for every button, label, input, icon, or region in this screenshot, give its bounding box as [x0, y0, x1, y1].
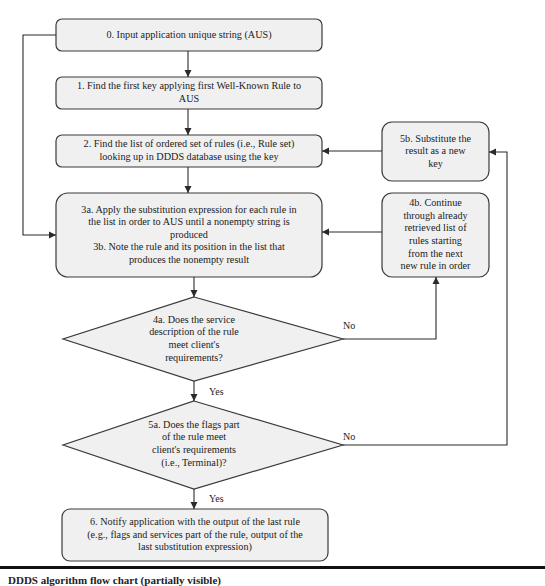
- edge-label-4a-no: No: [343, 320, 355, 331]
- step0-text: 0. Input application unique string (AUS): [56, 19, 322, 51]
- step1-text: 1. Find the first key applying first Wel…: [56, 77, 322, 109]
- step2-text: 2. Find the list of ordered set of rules…: [56, 135, 322, 167]
- edge-label-4a-yes: Yes: [209, 386, 224, 397]
- edge-label-5a-no: No: [343, 431, 355, 442]
- step5a-text: 5a. Does the flags part of the rule meet…: [124, 412, 264, 476]
- step5b-text: 5b. Substitute the result as a new key: [382, 122, 489, 181]
- step3-text: 3a. Apply the substitution expression fo…: [56, 193, 322, 277]
- step4b-text: 4b. Continue through already retrieved l…: [382, 193, 489, 277]
- arrow-4a-4b: [343, 277, 436, 339]
- arrow-0-3-loop: [23, 35, 56, 235]
- bottom-rule: [0, 566, 545, 569]
- figure-caption: DDDS algorithm flow chart (partially vis…: [8, 574, 221, 586]
- step4a-text: 4a. Does the service description of the …: [124, 307, 264, 371]
- edge-label-5a-yes: Yes: [209, 493, 224, 504]
- step6-text: 6. Notify application with the output of…: [62, 509, 328, 561]
